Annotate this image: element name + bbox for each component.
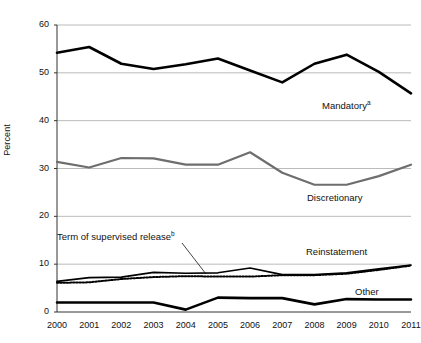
line-chart: Percent 01020304050602000200120022003200… — [0, 0, 421, 343]
y-tick-label: 20 — [23, 210, 49, 220]
x-tick-label: 2004 — [169, 320, 203, 330]
y-tick-label: 10 — [23, 258, 49, 268]
x-tick-label: 2000 — [40, 320, 74, 330]
annotation-leader-line — [182, 243, 206, 274]
series-label-term-of-supervised-release: Term of supervised releaseb — [57, 231, 175, 242]
footnote-marker: b — [171, 230, 175, 237]
x-tick-label: 2007 — [265, 320, 299, 330]
x-tick-label: 2010 — [362, 320, 396, 330]
series-line-term-of-supervised-release — [57, 266, 411, 283]
series-label-mandatory: Mandatorya — [322, 100, 371, 111]
series-label-discretionary: Discretionary — [307, 192, 362, 203]
x-tick-label: 2005 — [201, 320, 235, 330]
y-tick-label: 30 — [23, 163, 49, 173]
x-tick-label: 2009 — [330, 320, 364, 330]
x-tick-label: 2006 — [233, 320, 267, 330]
series-label-reinstatement: Reinstatement — [306, 246, 367, 257]
x-tick-label: 2011 — [394, 320, 421, 330]
y-tick-label: 50 — [23, 67, 49, 77]
x-tick-label: 2002 — [104, 320, 138, 330]
footnote-marker: a — [367, 99, 371, 106]
y-tick-label: 0 — [23, 306, 49, 316]
x-tick-label: 2003 — [137, 320, 171, 330]
series-line-other — [57, 298, 411, 310]
y-axis-title: Percent — [2, 110, 12, 170]
x-tick-label: 2001 — [72, 320, 106, 330]
series-line-mandatory — [57, 47, 411, 93]
y-tick-label: 40 — [23, 115, 49, 125]
y-tick-label: 60 — [23, 19, 49, 29]
series-label-other: Other — [355, 286, 379, 297]
x-tick-label: 2008 — [297, 320, 331, 330]
